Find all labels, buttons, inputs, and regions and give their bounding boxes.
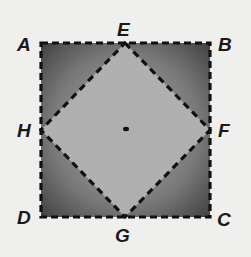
label-G: G <box>115 226 130 245</box>
label-B: B <box>218 35 232 54</box>
label-F: F <box>218 121 230 140</box>
center-point <box>123 127 129 131</box>
label-E: E <box>117 20 130 39</box>
label-D: D <box>17 208 31 227</box>
label-A: A <box>17 35 31 54</box>
label-C: C <box>217 210 231 229</box>
label-H: H <box>17 121 31 140</box>
